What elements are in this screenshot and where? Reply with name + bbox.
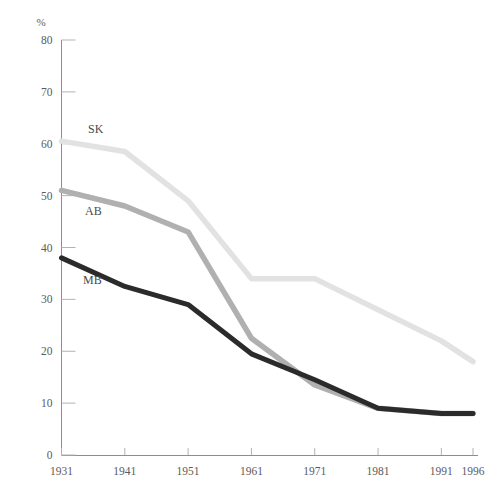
- series-group: [62, 141, 474, 413]
- y-tick-label: 50: [41, 190, 53, 202]
- y-tick-label: 60: [41, 138, 53, 150]
- series-label-sk: SK: [88, 122, 104, 136]
- x-tick-label: 1971: [303, 465, 326, 477]
- x-tick-label: 1961: [240, 465, 263, 477]
- line-chart: 01020304050607080 1931194119511961197119…: [0, 0, 500, 498]
- series-label-ab: AB: [85, 204, 102, 218]
- y-tick-label: 10: [41, 397, 53, 409]
- x-tick-label: 1951: [177, 465, 200, 477]
- x-tick-label: 1931: [50, 465, 73, 477]
- chart-canvas: 01020304050607080 1931194119511961197119…: [0, 0, 500, 498]
- y-tick-label: 70: [41, 86, 53, 98]
- y-tick-group: 01020304050607080: [41, 34, 76, 461]
- x-tick-group: 19311941195119611971198119911996: [50, 448, 485, 477]
- y-tick-label: 0: [47, 449, 53, 461]
- series-label-mb: MB: [83, 273, 102, 287]
- x-tick-label: 1981: [367, 465, 390, 477]
- y-tick-label: 80: [41, 34, 53, 46]
- x-tick-label: 1996: [462, 465, 485, 477]
- series-line-ab: [62, 190, 474, 413]
- y-tick-label: 30: [41, 293, 53, 305]
- y-tick-label: 20: [41, 345, 53, 357]
- x-tick-label: 1991: [430, 465, 453, 477]
- y-tick-label: 40: [41, 242, 53, 254]
- series-line-sk: [62, 141, 474, 361]
- y-axis-unit-label: %: [36, 16, 45, 28]
- x-tick-label: 1941: [113, 465, 136, 477]
